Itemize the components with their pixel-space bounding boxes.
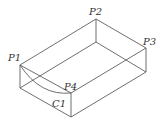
edge-b2-b3 bbox=[96, 42, 146, 72]
edge-b3-b4 bbox=[71, 72, 146, 117]
box-diagram-svg: P1 P2 P3 P4 C1 bbox=[0, 0, 165, 130]
label-p4: P4 bbox=[63, 81, 77, 92]
label-c1: C1 bbox=[52, 98, 66, 109]
label-p2: P2 bbox=[88, 6, 102, 17]
label-p1: P1 bbox=[7, 52, 21, 63]
edge-b1-b2 bbox=[20, 42, 96, 88]
label-p3: P3 bbox=[142, 36, 156, 47]
box-diagram: P1 P2 P3 P4 C1 bbox=[0, 0, 165, 130]
edge-p2-p3 bbox=[96, 19, 146, 48]
edge-p3-p4 bbox=[71, 48, 146, 93]
edge-p1-p2 bbox=[20, 19, 96, 65]
